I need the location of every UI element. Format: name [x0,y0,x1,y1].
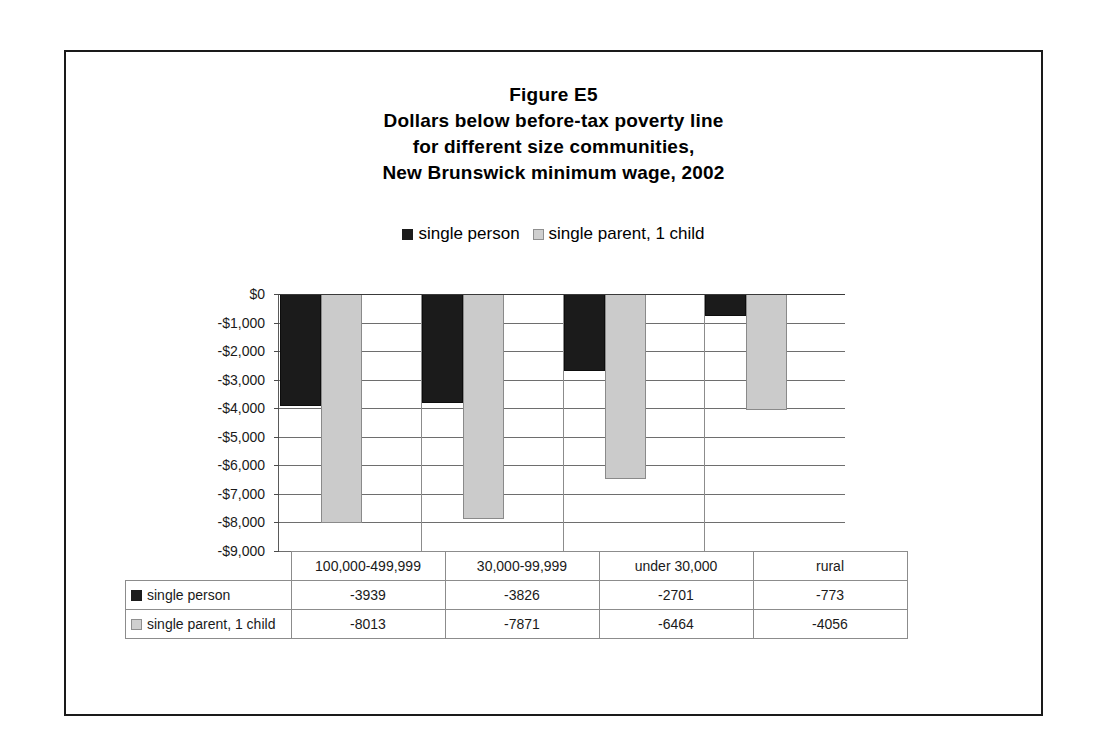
bar [280,294,321,406]
data-cell-single-person-3: -773 [753,581,907,610]
legend-label-single-person: single person [418,224,519,244]
y-axis-tick-labels: $0-$1,000-$2,000-$3,000-$4,000-$5,000-$6… [125,287,273,552]
chart-title-line-3: for different size communities, [66,134,1041,160]
y-axis-tick-label: -$3,000 [218,372,265,388]
y-tick-mark [274,351,279,352]
legend-entry-single-parent-1-child: single parent, 1 child [533,224,705,244]
bar [746,294,787,410]
data-cell-single-parent-2: -6464 [599,610,753,639]
light-square-icon [131,619,142,630]
category-header-3: rural [753,552,907,581]
data-cell-single-person-1: -3826 [445,581,599,610]
category-header-0: 100,000-499,999 [291,552,445,581]
y-tick-mark [274,494,279,495]
bar [605,294,646,479]
figure-frame: Figure E5 Dollars below before-tax pover… [64,50,1043,716]
series-label-single-person: single person [147,587,230,603]
dark-square-icon [402,229,413,240]
zero-axis-line [279,294,845,295]
table-row: single parent, 1 child -8013 -7871 -6464… [126,610,908,639]
series-label-single-parent-1-child: single parent, 1 child [147,616,275,632]
y-axis-tick-label: -$8,000 [218,514,265,530]
chart-title: Figure E5 Dollars below before-tax pover… [66,82,1041,186]
table-header-row: 100,000-499,999 30,000-99,999 under 30,0… [126,552,908,581]
dark-square-icon [131,590,142,601]
bar [463,294,504,519]
y-tick-mark [274,380,279,381]
legend-entry-single-person: single person [402,224,519,244]
y-axis-tick-label: -$7,000 [218,486,265,502]
y-tick-mark [274,522,279,523]
y-axis-tick-label: -$6,000 [218,457,265,473]
category-header-1: 30,000-99,999 [445,552,599,581]
table-row: single person -3939 -3826 -2701 -773 [126,581,908,610]
data-cell-single-person-0: -3939 [291,581,445,610]
category-header-2: under 30,000 [599,552,753,581]
light-square-icon [533,229,544,240]
series-label-cell-single-person: single person [126,581,292,610]
data-cell-single-person-2: -2701 [599,581,753,610]
category-separator [704,294,705,551]
y-tick-mark [274,465,279,466]
plot-area [278,294,845,551]
data-cell-single-parent-0: -8013 [291,610,445,639]
chart-legend: single person single parent, 1 child [66,224,1041,244]
data-table: 100,000-499,999 30,000-99,999 under 30,0… [125,551,908,639]
plot-wrapper: $0-$1,000-$2,000-$3,000-$4,000-$5,000-$6… [125,287,905,702]
y-axis-tick-label: -$5,000 [218,429,265,445]
data-cell-single-parent-3: -4056 [753,610,907,639]
bar [705,294,746,316]
y-axis-tick-label: $0 [249,286,265,302]
bar [422,294,463,403]
data-table-body: 100,000-499,999 30,000-99,999 under 30,0… [126,552,908,639]
data-cell-single-parent-1: -7871 [445,610,599,639]
y-axis-tick-label: -$2,000 [218,343,265,359]
y-tick-mark [274,408,279,409]
chart-title-line-2: Dollars below before-tax poverty line [66,108,1041,134]
y-tick-mark [274,437,279,438]
y-axis-tick-label: -$4,000 [218,400,265,416]
bar [564,294,605,371]
chart-title-line-1: Figure E5 [66,82,1041,108]
y-tick-mark [274,323,279,324]
y-axis-tick-label: -$1,000 [218,315,265,331]
legend-label-single-parent-1-child: single parent, 1 child [549,224,705,244]
table-corner-cell [126,552,292,581]
chart-title-line-4: New Brunswick minimum wage, 2002 [66,160,1041,186]
bar [321,294,362,523]
series-label-cell-single-parent-1-child: single parent, 1 child [126,610,292,639]
